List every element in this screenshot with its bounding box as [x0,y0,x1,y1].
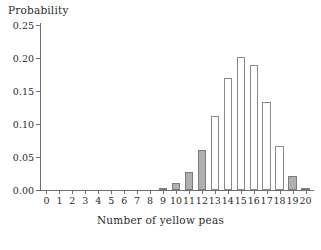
x-tick-label: 6 [121,195,127,206]
x-tick-label: 0 [43,195,49,206]
plot-area: 0.000.050.100.150.200.250123456789101112… [40,25,312,190]
x-tick-mark [137,190,138,194]
x-tick-label: 10 [170,195,182,206]
x-tick-mark [189,190,190,194]
x-tick-label: 4 [95,195,101,206]
x-tick-label: 5 [108,195,114,206]
x-axis-title: Number of yellow peas [0,214,321,226]
x-tick-label: 2 [69,195,75,206]
x-tick-label: 13 [209,195,221,206]
x-tick-mark [163,190,164,194]
x-tick-mark [72,190,73,194]
x-tick-mark [202,190,203,194]
bar-11 [185,172,193,190]
bar-12 [198,150,206,190]
x-tick-label: 7 [134,195,140,206]
x-tick-label: 9 [160,195,166,206]
x-tick-mark [98,190,99,194]
x-tick-label: 1 [56,195,62,206]
x-tick-mark [215,190,216,194]
x-tick-mark [176,190,177,194]
y-tick-label: 0.15 [13,86,34,97]
x-tick-mark [267,190,268,194]
x-tick-mark [111,190,112,194]
x-tick-label: 8 [147,195,153,206]
y-tick-mark [36,91,40,92]
y-tick-label: 0.05 [13,152,34,163]
bar-19 [288,176,296,190]
x-tick-mark [254,190,255,194]
x-tick-label: 19 [287,195,299,206]
x-tick-label: 18 [274,195,286,206]
x-tick-mark [124,190,125,194]
x-tick-mark [150,190,151,194]
x-tick-label: 11 [183,195,195,206]
y-tick-label: 0.20 [13,53,34,64]
x-tick-mark [59,190,60,194]
y-tick-mark [36,124,40,125]
x-tick-label: 20 [299,195,311,206]
x-tick-label: 16 [248,195,260,206]
y-tick-label: 0.00 [13,185,34,196]
bar-13 [211,116,219,190]
x-axis-line [40,190,314,191]
y-tick-mark [36,190,40,191]
y-tick-label: 0.25 [13,20,34,31]
y-tick-mark [36,157,40,158]
x-tick-mark [306,190,307,194]
x-tick-mark [228,190,229,194]
x-tick-mark [241,190,242,194]
x-tick-mark [85,190,86,194]
x-tick-mark [280,190,281,194]
bar-18 [275,146,283,190]
bar-17 [262,102,270,190]
y-tick-label: 0.10 [13,119,34,130]
y-tick-mark [36,25,40,26]
x-tick-mark [46,190,47,194]
x-tick-label: 12 [196,195,208,206]
bar-14 [224,78,232,190]
y-axis-title: Probability [8,4,69,16]
bar-10 [172,183,180,190]
bar-16 [250,65,258,190]
x-tick-label: 15 [235,195,247,206]
x-tick-label: 17 [261,195,273,206]
probability-bar-chart: Probability 0.000.050.100.150.200.250123… [0,0,321,250]
bar-15 [237,57,245,190]
x-tick-label: 14 [222,195,234,206]
y-tick-mark [36,58,40,59]
x-tick-label: 3 [82,195,88,206]
x-tick-mark [293,190,294,194]
